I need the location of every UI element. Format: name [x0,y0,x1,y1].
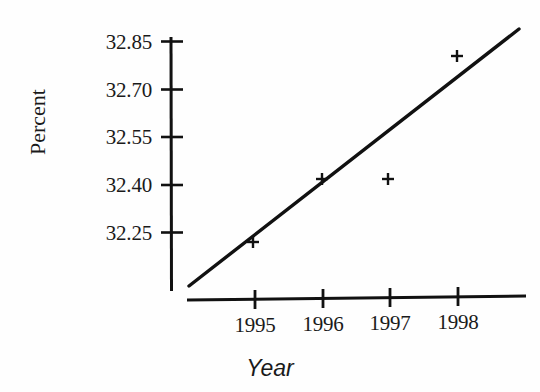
y-axis-line [171,37,172,291]
y-axis-title: Percent [0,92,98,152]
x-axis-title: Year [0,355,540,382]
x-tick-label-1996: 1996 [289,312,357,337]
x-axis-line [187,296,526,300]
x-tick-label-1997: 1997 [356,311,424,336]
data-point-1997 [382,173,394,185]
x-tick-label-1998: 1998 [424,310,492,335]
y-tick-label-3225: 32.25 [72,221,152,246]
x-tick-label-1995: 1995 [221,313,289,338]
chart-figure: 32.85 32.70 32.55 32.40 32.25 1995 1996 … [0,0,540,392]
data-point-1998 [451,50,463,62]
y-tick-label-3240: 32.40 [72,173,152,198]
y-tick-label-3285: 32.85 [72,30,152,55]
trend-line [189,29,519,286]
data-point-1996 [316,173,328,185]
